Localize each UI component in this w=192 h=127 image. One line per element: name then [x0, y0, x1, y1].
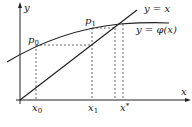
- x-axis-label: x: [181, 87, 187, 97]
- axes: [16, 5, 188, 104]
- label-y-equals-phi: y = φ(x): [136, 25, 177, 35]
- tick-x0-label: x0: [32, 103, 42, 115]
- point-p1-label: p1: [85, 16, 96, 28]
- point-p0-label: p0: [28, 35, 39, 47]
- dashed-guides: [36, 24, 123, 100]
- x-axis-arrow-icon: [185, 98, 191, 102]
- label-y-equals-x: y = x: [144, 4, 170, 14]
- tick-xstar-label: x*: [120, 103, 129, 113]
- tick-x1-label: x1: [88, 103, 98, 115]
- fixed-point-diagram: y x y = x y = φ(x) p0 p1 x0 x1 x*: [0, 0, 192, 127]
- y-axis-label: y: [24, 3, 30, 13]
- y-axis-arrow-icon: [18, 2, 22, 8]
